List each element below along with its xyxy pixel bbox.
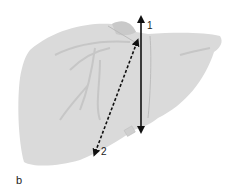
liver-diagram <box>0 0 239 190</box>
panel-label: b <box>16 174 22 186</box>
arrow-1-label: 1 <box>147 20 153 31</box>
arrow-2-label: 2 <box>101 146 107 157</box>
liver-shape <box>18 21 221 165</box>
